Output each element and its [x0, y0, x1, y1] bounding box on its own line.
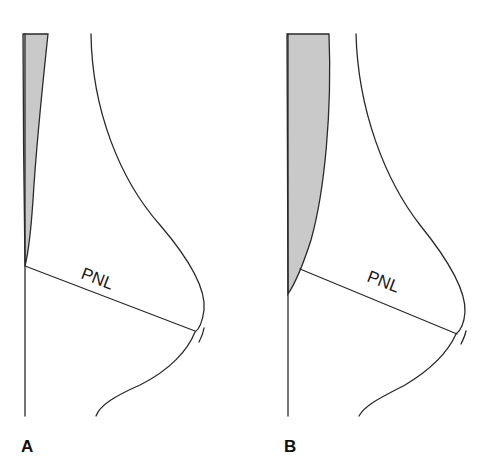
panel-label-a: A: [21, 437, 33, 456]
panel-a: PNL A: [21, 34, 204, 456]
profile-curve-a: [91, 34, 204, 416]
nipple-tick-b: [461, 331, 466, 344]
panel-b: PNL B: [284, 34, 466, 456]
pnl-label-b: PNL: [365, 267, 403, 297]
figure: PNL A PNL B: [0, 0, 490, 476]
panel-label-b: B: [284, 437, 296, 456]
shaded-wedge-b: [287, 34, 330, 294]
shaded-wedge-a: [23, 34, 48, 266]
nipple-tick-a: [199, 328, 204, 342]
profile-curve-b: [356, 34, 465, 416]
